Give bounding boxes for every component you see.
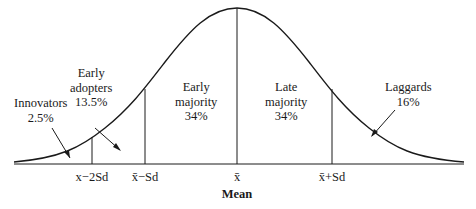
tick-minus-2sd: x−2Sd — [76, 170, 109, 184]
arrow-laggards — [371, 110, 395, 137]
late-majority-name-1: Late — [265, 80, 307, 95]
arrow-early-adopters — [95, 128, 121, 151]
laggards-name: Laggards — [385, 80, 432, 95]
tick-minus-1sd: x̄−Sd — [132, 170, 159, 184]
tick-plus-1sd: x̄+Sd — [319, 170, 346, 184]
late-majority-name-2: majority — [265, 95, 307, 110]
label-laggards: Laggards 16% — [385, 80, 432, 109]
early-adopters-name-2: adopters — [70, 81, 112, 96]
early-adopters-percent: 13.5% — [70, 95, 112, 110]
late-majority-percent: 34% — [265, 109, 307, 124]
early-adopters-name-1: Early — [70, 66, 112, 81]
label-early-majority: Early majority 34% — [175, 80, 217, 124]
label-early-adopters: Early adopters 13.5% — [70, 66, 112, 110]
early-majority-percent: 34% — [175, 109, 217, 124]
label-innovators: Innovators 2.5% — [14, 96, 67, 125]
early-majority-name-2: majority — [175, 95, 217, 110]
innovators-percent: 2.5% — [14, 111, 67, 126]
label-late-majority: Late majority 34% — [265, 80, 307, 124]
early-majority-name-1: Early — [175, 80, 217, 95]
tick-mean: x̄ — [234, 170, 240, 184]
laggards-percent: 16% — [385, 95, 432, 110]
axis-label-mean: Mean — [222, 187, 253, 202]
adopter-curve-diagram: Innovators 2.5% Early adopters 13.5% Ear… — [0, 0, 476, 209]
innovators-name: Innovators — [14, 96, 67, 111]
